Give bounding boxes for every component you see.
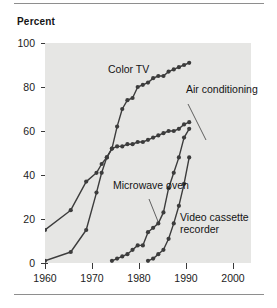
data-point bbox=[130, 248, 134, 252]
bottom-divider-rule bbox=[14, 294, 264, 295]
data-point bbox=[182, 63, 186, 67]
data-point bbox=[161, 131, 165, 135]
x-tick-mark-2000 bbox=[233, 263, 234, 269]
series-label-vcr: Video cassette recorder bbox=[180, 212, 277, 235]
data-point bbox=[187, 155, 191, 159]
x-tick-label-1960: 1960 bbox=[25, 272, 65, 284]
data-point bbox=[69, 250, 73, 254]
y-tick-label-60: 60 bbox=[9, 125, 35, 137]
data-point bbox=[125, 252, 129, 256]
data-point bbox=[161, 74, 165, 78]
y-tick-label-40: 40 bbox=[9, 169, 35, 181]
y-axis-title: Percent bbox=[17, 16, 55, 27]
series-line-2 bbox=[112, 129, 189, 261]
data-point bbox=[120, 107, 124, 111]
data-point bbox=[94, 171, 98, 175]
data-point bbox=[110, 147, 114, 151]
data-point bbox=[136, 140, 140, 144]
data-point bbox=[110, 259, 114, 263]
data-point bbox=[45, 259, 47, 263]
series-label-color-tv: Color TV bbox=[108, 64, 149, 76]
data-point bbox=[177, 204, 181, 208]
x-tick-label-1970: 1970 bbox=[72, 272, 112, 284]
y-tick-label-100: 100 bbox=[9, 37, 35, 49]
data-point bbox=[167, 129, 171, 133]
data-point bbox=[115, 125, 119, 129]
data-point bbox=[172, 129, 176, 133]
data-point bbox=[105, 155, 109, 159]
x-tick-label-1980: 1980 bbox=[119, 272, 159, 284]
data-point bbox=[187, 127, 191, 131]
y-tick-label-80: 80 bbox=[9, 81, 35, 93]
data-point bbox=[182, 136, 186, 140]
data-point bbox=[177, 127, 181, 131]
series-line-1 bbox=[45, 122, 189, 230]
data-point bbox=[151, 76, 155, 80]
data-point bbox=[136, 85, 140, 89]
y-tick-label-0: 0 bbox=[9, 257, 35, 269]
data-point bbox=[146, 138, 150, 142]
data-point bbox=[172, 221, 176, 225]
data-point bbox=[125, 142, 129, 146]
data-point bbox=[187, 61, 191, 65]
series-label-air-conditioning: Air conditioning bbox=[186, 84, 258, 96]
data-point bbox=[69, 208, 73, 212]
data-point bbox=[151, 136, 155, 140]
data-point bbox=[146, 259, 150, 263]
data-point bbox=[161, 248, 165, 252]
data-point bbox=[156, 221, 160, 225]
data-point bbox=[115, 144, 119, 148]
data-point bbox=[177, 65, 181, 69]
x-tick-label-2000: 2000 bbox=[213, 272, 253, 284]
data-point bbox=[100, 171, 104, 175]
data-point bbox=[84, 228, 88, 232]
x-tick-mark-1960 bbox=[45, 263, 46, 269]
data-point bbox=[151, 257, 155, 261]
data-point bbox=[141, 140, 145, 144]
x-tick-mark-1980 bbox=[139, 263, 140, 269]
data-point bbox=[141, 83, 145, 87]
data-point bbox=[187, 120, 191, 124]
data-point bbox=[136, 243, 140, 247]
data-point bbox=[146, 230, 150, 234]
data-point bbox=[156, 252, 160, 256]
data-point bbox=[130, 96, 134, 100]
data-point bbox=[84, 180, 88, 184]
data-point bbox=[156, 74, 160, 78]
data-point bbox=[94, 191, 98, 195]
data-point bbox=[172, 171, 176, 175]
data-point bbox=[100, 162, 104, 166]
data-point bbox=[125, 98, 129, 102]
data-point bbox=[115, 257, 119, 261]
x-tick-label-1990: 1990 bbox=[166, 272, 206, 284]
data-point bbox=[182, 122, 186, 126]
data-point bbox=[161, 210, 165, 214]
data-point bbox=[151, 226, 155, 230]
x-tick-mark-1970 bbox=[92, 263, 93, 269]
data-point bbox=[130, 142, 134, 146]
data-point bbox=[120, 144, 124, 148]
data-point bbox=[177, 155, 181, 159]
series-label-microwave-oven: Microwave oven bbox=[113, 180, 189, 192]
data-point bbox=[167, 237, 171, 241]
x-tick-mark-1990 bbox=[186, 263, 187, 269]
data-point bbox=[172, 67, 176, 71]
series-line-3 bbox=[148, 157, 189, 260]
data-point bbox=[141, 243, 145, 247]
data-point bbox=[156, 133, 160, 137]
top-divider-rule bbox=[14, 3, 264, 4]
y-tick-label-20: 20 bbox=[9, 213, 35, 225]
chart-figure: Percent 100 80 60 40 20 0 1960 1970 1980… bbox=[0, 0, 277, 308]
series-line-0 bbox=[45, 63, 189, 261]
data-point bbox=[146, 81, 150, 85]
data-point bbox=[167, 70, 171, 74]
data-point bbox=[120, 254, 124, 258]
